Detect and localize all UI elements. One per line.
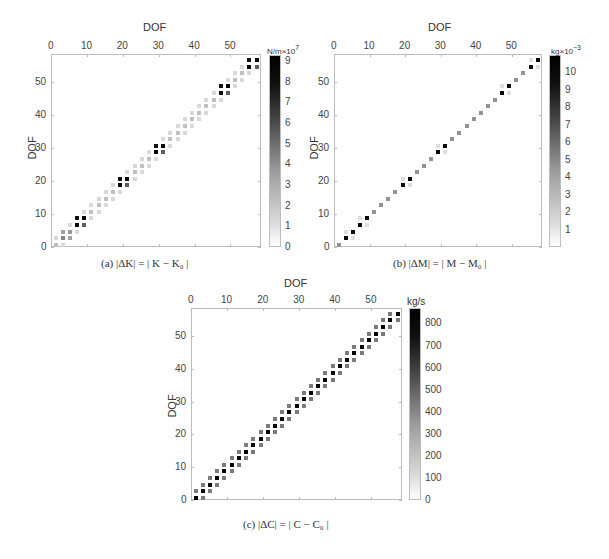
- heatmap-cell: [161, 144, 165, 148]
- heatmap-cell: [507, 91, 511, 95]
- heatmap-cell: [316, 378, 320, 382]
- x-tick-mark: [371, 497, 372, 500]
- heatmap-cell: [161, 137, 165, 141]
- heatmap-cell: [190, 124, 194, 128]
- heatmap-cell: [443, 144, 447, 148]
- heatmap-cell: [244, 443, 248, 447]
- heatmap-cell: [352, 351, 356, 355]
- heatmap-cell: [208, 476, 212, 480]
- heatmap-cell: [309, 384, 313, 388]
- heatmap-cell: [168, 144, 172, 148]
- heatmap-cell: [344, 230, 348, 234]
- caption-c: (c) |ΔC| = | C − C₀ |: [243, 518, 329, 530]
- heatmap-cell: [337, 243, 341, 247]
- y-tick-mark: [258, 115, 261, 116]
- colorbar-tick-label: 6: [285, 118, 291, 128]
- colorbar-tick-label: 0: [425, 495, 431, 505]
- y-tick-mark: [191, 500, 194, 501]
- heatmap-cell: [222, 463, 226, 467]
- y-tick-label: 30: [175, 397, 186, 407]
- heatmap-cell: [450, 137, 454, 141]
- heatmap-cell: [273, 430, 277, 434]
- heatmap-cell: [125, 183, 129, 187]
- y-tick-label: 20: [318, 176, 329, 186]
- heatmap-cell: [133, 170, 137, 174]
- heatmap-cell: [393, 190, 397, 194]
- heatmap-cell: [255, 65, 259, 69]
- heatmap-cell: [259, 443, 263, 447]
- heatmap-cell: [331, 371, 335, 375]
- y-tick-label: 40: [318, 110, 329, 120]
- heatmap-cell: [68, 230, 72, 234]
- heatmap-cell: [104, 190, 108, 194]
- colorbar-tick-label: 3: [285, 180, 291, 190]
- heatmap-cell: [176, 131, 180, 135]
- heatmap-cell: [190, 117, 194, 121]
- y-tick-mark: [191, 402, 194, 403]
- y-tick-mark: [334, 115, 337, 116]
- heatmap-cell: [201, 483, 205, 487]
- heatmap-cell: [154, 157, 158, 161]
- x-tick-label: 30: [293, 295, 304, 305]
- y-tick-mark: [51, 214, 54, 215]
- heatmap-cell: [500, 91, 504, 95]
- heatmap-cell: [367, 332, 371, 336]
- heatmap-cell: [237, 450, 241, 454]
- y-tick-mark: [258, 148, 261, 149]
- y-tick-label: 50: [318, 77, 329, 87]
- heatmap-cell: [215, 483, 219, 487]
- heatmap-cell: [222, 469, 226, 473]
- colorbar-tick-label: 5: [285, 139, 291, 149]
- heatmap-cell: [215, 469, 219, 473]
- x-tick-label: 50: [224, 41, 235, 51]
- y-tick-label: 20: [35, 176, 46, 186]
- x-tick-mark: [227, 497, 228, 500]
- heatmap-cell: [111, 190, 115, 194]
- y-tick-label: 30: [35, 143, 46, 153]
- colorbar-tick-label: 300: [425, 429, 442, 439]
- heatmap-cell: [168, 131, 172, 135]
- heatmap-cell: [133, 177, 137, 181]
- colorbar-tick-label: 0: [285, 242, 291, 252]
- x-tick-label: 0: [331, 41, 337, 51]
- heatmap-cell: [176, 137, 180, 141]
- heatmap-cell: [351, 236, 355, 240]
- heatmap-cell: [465, 124, 469, 128]
- heatmap-cell: [529, 58, 533, 62]
- x-tick-mark: [371, 308, 372, 311]
- heatmap-cell: [316, 384, 320, 388]
- heatmap-cell: [183, 131, 187, 135]
- heatmap-cell: [215, 476, 219, 480]
- y-tick-mark: [258, 181, 261, 182]
- heatmap-cell: [302, 391, 306, 395]
- heatmap-cell: [240, 78, 244, 82]
- heatmap-cell: [295, 404, 299, 408]
- heatmap-plot-c: [191, 308, 402, 500]
- colorbar-tick-label: 6: [565, 137, 571, 147]
- heatmap-cell: [472, 117, 476, 121]
- heatmap-cell: [204, 104, 208, 108]
- x-tick-mark: [227, 308, 228, 311]
- heatmap-cell: [255, 58, 259, 62]
- x-tick-label: 30: [435, 41, 446, 51]
- heatmap-cell: [287, 404, 291, 408]
- heatmap-cell: [230, 463, 234, 467]
- heatmap-cell: [111, 197, 115, 201]
- heatmap-cell: [360, 338, 364, 342]
- heatmap-cell: [323, 371, 327, 375]
- heatmap-cell: [54, 236, 58, 240]
- x-tick-mark: [405, 54, 406, 57]
- heatmap-cell: [154, 150, 158, 154]
- y-tick-mark: [51, 115, 54, 116]
- heatmap-cell: [345, 351, 349, 355]
- heatmap-cell: [197, 117, 201, 121]
- heatmap-cell: [443, 150, 447, 154]
- x-tick-mark: [299, 308, 300, 311]
- heatmap-cell: [176, 124, 180, 128]
- y-tick-label: 50: [35, 77, 46, 87]
- heatmap-cell: [140, 170, 144, 174]
- heatmap-cell: [237, 456, 241, 460]
- x-tick-mark: [370, 54, 371, 57]
- y-tick-label: 10: [35, 209, 46, 219]
- heatmap-cell: [125, 177, 129, 181]
